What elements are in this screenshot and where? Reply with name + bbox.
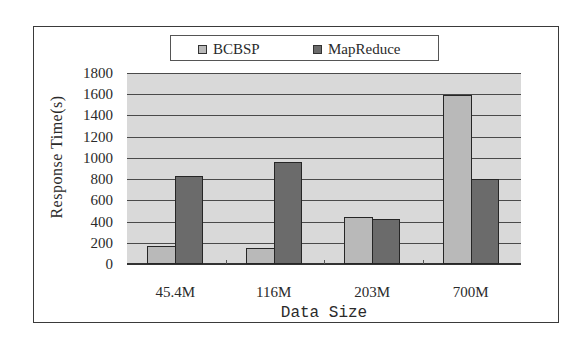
y-tick-label: 1800 — [83, 66, 113, 81]
bar-mapreduce-116m — [274, 162, 302, 264]
legend-swatch-bcbsp — [198, 45, 207, 54]
bar-mapreduce-203m — [372, 219, 400, 264]
x-tick-label: 700M — [453, 284, 489, 300]
x-axis-label: Data Size — [281, 304, 367, 322]
bar-bcbsp-700m — [443, 95, 472, 264]
bar-mapreduce-700m — [471, 179, 499, 264]
x-tick-mark — [324, 260, 325, 264]
y-tick-label: 800 — [91, 172, 114, 187]
legend-label-mapreduce: MapReduce — [328, 41, 400, 58]
y-tick-label: 400 — [91, 214, 114, 229]
y-tick-label: 1600 — [83, 87, 113, 102]
y-tick-label: 1200 — [83, 129, 113, 144]
y-axis-label: Response Time(s) — [48, 95, 66, 218]
x-tick-mark — [226, 260, 227, 264]
legend-label-bcbsp: BCBSP — [213, 41, 260, 58]
x-tick-label: 45.4M — [155, 284, 195, 300]
x-tick-label: 203M — [354, 284, 390, 300]
legend-item-mapreduce: MapReduce — [313, 40, 400, 58]
y-tick-label: 1400 — [83, 108, 113, 123]
x-tick-mark — [423, 260, 424, 264]
bar-bcbsp-45-4m — [147, 246, 176, 264]
y-tick-label: 600 — [91, 193, 114, 208]
x-tick-label: 116M — [256, 284, 291, 300]
legend-swatch-mapreduce — [313, 45, 322, 54]
bar-bcbsp-116m — [246, 248, 275, 264]
legend: BCBSP MapReduce — [170, 35, 439, 61]
bar-bcbsp-203m — [344, 217, 373, 264]
y-tick-label: 200 — [91, 235, 114, 250]
gridline — [127, 73, 521, 74]
bar-mapreduce-45-4m — [175, 176, 203, 264]
y-tick-label: 1000 — [83, 150, 113, 165]
plot-area — [127, 73, 521, 264]
legend-item-bcbsp: BCBSP — [198, 40, 260, 58]
y-tick-label: 0 — [106, 257, 114, 272]
